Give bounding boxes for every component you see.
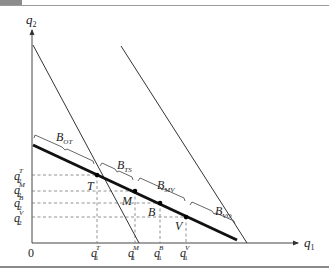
segment-TS-label: BTS: [117, 158, 132, 174]
x-tick-qV: qV1: [180, 244, 190, 262]
y-axis-label: q2: [26, 12, 37, 29]
point-T-marker: [95, 173, 100, 178]
point-M-marker: [133, 189, 138, 194]
point-M-label: M: [121, 194, 133, 208]
economics-diagram: q2 q1 0 T M B V qT2 qM2 qB2 qV2 qT1 qM1 …: [0, 0, 329, 271]
segment-BOT-label: BOT: [56, 130, 73, 146]
x-tick-qB: qB1: [154, 244, 164, 262]
point-V-label: V: [175, 219, 184, 233]
point-B-marker: [158, 201, 163, 206]
x-tick-qM: qM1: [128, 244, 140, 262]
braces: [34, 135, 235, 224]
x-axis-label: q1: [304, 235, 315, 252]
segment-MV-label: BMV: [157, 178, 175, 194]
x-tick-qT: qT1: [91, 244, 101, 262]
left-steep-line: [33, 45, 139, 243]
origin-label: 0: [28, 246, 34, 260]
point-B-label: B: [148, 205, 156, 219]
y-tick-qV: qV2: [14, 209, 24, 227]
point-V-marker: [184, 215, 189, 220]
